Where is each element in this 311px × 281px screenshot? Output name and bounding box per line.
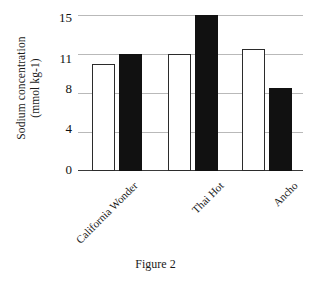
bar-california-wonder-open	[92, 64, 115, 171]
figure-caption: Figure 2	[0, 257, 311, 271]
y-tick-label-0: 0	[46, 163, 72, 176]
y-tick-label-11: 11	[46, 52, 72, 65]
bar-thai-hot-filled	[195, 15, 218, 171]
y-tick-label-8: 8	[46, 82, 72, 95]
bar-group-thai-hot	[168, 15, 228, 171]
y-axis-title: Sodium concentration (mmol kg-1)	[6, 0, 50, 175]
bar-group-ancho	[242, 15, 302, 171]
x-category-label-ancho: Ancho	[213, 180, 300, 267]
plot-area	[78, 15, 303, 171]
y-tick-label-15: 15	[46, 11, 72, 24]
bar-california-wonder-filled	[119, 54, 142, 171]
y-axis-title-line2: (mmol kg-1)	[28, 36, 42, 139]
bar-ancho-open	[242, 49, 265, 171]
y-tick-label-4: 4	[46, 122, 72, 135]
y-axis-title-line1: Sodium concentration	[15, 36, 27, 139]
figure-container: Sodium concentration (mmol kg-1) 15 11 8…	[0, 0, 311, 281]
bar-ancho-filled	[269, 88, 292, 171]
bar-thai-hot-open	[168, 54, 191, 171]
bar-group-california-wonder	[92, 15, 152, 171]
